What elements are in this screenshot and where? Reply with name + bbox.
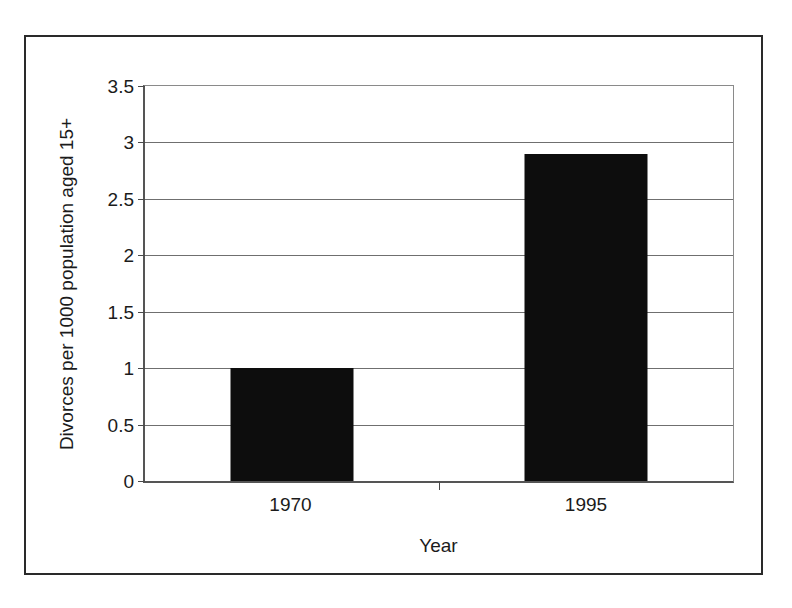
y-axis-tick (138, 481, 145, 482)
y-axis-tick-label: 1.5 (108, 302, 134, 321)
bar-slot-1995 (439, 86, 733, 481)
bar-1970 (231, 368, 354, 481)
y-axis-tick-label: 0 (123, 472, 134, 491)
x-axis-tick-divider (439, 481, 440, 490)
y-axis-title: Divorces per 1000 population aged 15+ (54, 85, 80, 483)
x-axis-label-1970: 1970 (143, 495, 438, 514)
y-axis-tick (138, 425, 145, 426)
y-axis-tick-label: 2.5 (108, 189, 134, 208)
bar-1995 (525, 154, 648, 481)
y-axis-tick (138, 142, 145, 143)
bar-slot-1970 (145, 86, 439, 481)
y-axis-tick-label: 3 (123, 133, 134, 152)
y-axis-tick (138, 86, 145, 87)
chart-plot-area: 00.511.522.533.5 (143, 85, 734, 483)
x-axis-title: Year (143, 536, 734, 555)
y-axis-tick (138, 255, 145, 256)
y-axis-tick (138, 312, 145, 313)
y-axis-tick-label: 0.5 (108, 415, 134, 434)
x-axis-label-1995: 1995 (438, 495, 734, 514)
y-axis-tick-label: 2 (123, 246, 134, 265)
y-axis-tick-label: 3.5 (108, 77, 134, 96)
y-axis-tick (138, 368, 145, 369)
y-axis-tick (138, 199, 145, 200)
y-axis-tick-label: 1 (123, 359, 134, 378)
figure-frame: 00.511.522.533.5 1970 1995 Year Divorces… (24, 35, 763, 575)
bar-series (145, 86, 733, 481)
